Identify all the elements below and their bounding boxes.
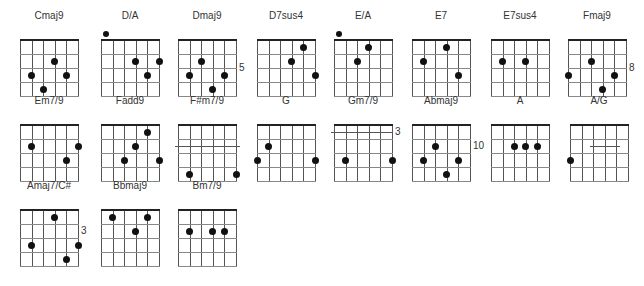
chord-name: A (480, 95, 560, 106)
fretboard-grid: 10 (412, 125, 470, 181)
nut (20, 124, 79, 126)
fret-line (570, 167, 629, 168)
fret-line (20, 82, 79, 83)
fret-line (334, 68, 393, 69)
finger-dot (221, 228, 228, 235)
fret-line (257, 139, 316, 140)
chord-name: Bbmaj9 (90, 180, 170, 191)
fret-line (257, 68, 316, 69)
fret-line (178, 266, 237, 267)
chord-name: Dmaj9 (167, 10, 247, 21)
finger-dot (443, 171, 450, 178)
finger-dot (233, 171, 240, 178)
chord-name: Fadd9 (90, 95, 170, 106)
fret-line (178, 68, 237, 69)
fret-number-label: 3 (81, 225, 87, 236)
fret-line (412, 167, 471, 168)
finger-dot (186, 171, 193, 178)
fret-number-label: 8 (629, 62, 635, 73)
fret-line (178, 82, 237, 83)
chord-name: E7 (401, 10, 481, 21)
fret-line (178, 54, 237, 55)
fret-line (20, 238, 79, 239)
finger-dot (522, 58, 529, 65)
finger-dot (144, 214, 151, 221)
fret-line (20, 68, 79, 69)
finger-dot (51, 214, 58, 221)
chord-name: Gm7/9 (323, 95, 403, 106)
fretboard-grid (570, 125, 628, 181)
fret-line (101, 252, 160, 253)
fretboard-grid (20, 40, 78, 96)
fret-line (101, 54, 160, 55)
nut (412, 124, 471, 126)
fret-line (491, 54, 550, 55)
nut (412, 39, 471, 41)
fret-line (178, 139, 237, 140)
finger-dot (432, 143, 439, 150)
nut (178, 209, 237, 211)
finger-dot (499, 58, 506, 65)
fret-line (570, 153, 629, 154)
fret-line (334, 82, 393, 83)
finger-dot (209, 228, 216, 235)
fretboard-grid (178, 210, 236, 266)
fretboard-grid: 3 (20, 210, 78, 266)
fret-line (257, 82, 316, 83)
fret-line (412, 54, 471, 55)
fretboard-grid (257, 40, 315, 96)
fret-line (101, 82, 160, 83)
fretboard-grid (101, 210, 159, 266)
chord-name: E7sus4 (480, 10, 560, 21)
finger-dot (522, 143, 529, 150)
fret-line (101, 167, 160, 168)
finger-dot (455, 157, 462, 164)
nut (334, 124, 393, 126)
fret-line (491, 68, 550, 69)
fret-line (491, 153, 550, 154)
finger-dot (40, 86, 47, 93)
fretboard-grid (412, 40, 470, 96)
barre-line (175, 146, 240, 147)
finger-dot (63, 72, 70, 79)
finger-dot (75, 242, 82, 249)
chord-name: Bm7/9 (167, 180, 247, 191)
fretboard-grid (257, 125, 315, 181)
fretboard-grid (178, 125, 236, 181)
finger-dot (186, 228, 193, 235)
barre-line (331, 132, 392, 133)
chord-name: Cmaj9 (9, 10, 89, 21)
chord-name: Fmaj9 (557, 10, 637, 21)
finger-dot (265, 143, 272, 150)
fret-line (491, 139, 550, 140)
fret-line (20, 54, 79, 55)
finger-dot (186, 72, 193, 79)
fret-line (20, 252, 79, 253)
fret-line (491, 181, 550, 182)
fret-line (412, 139, 471, 140)
finger-dot (221, 72, 228, 79)
fret-line (178, 153, 237, 154)
chord-name: D/A (90, 10, 170, 21)
fretboard-grid (101, 125, 159, 181)
finger-dot (156, 157, 163, 164)
finger-dot (588, 58, 595, 65)
finger-dot (144, 72, 151, 79)
finger-dot (132, 58, 139, 65)
finger-dot (354, 58, 361, 65)
nut (257, 39, 316, 41)
fret-line (412, 153, 471, 154)
fret-line (568, 82, 627, 83)
finger-dot (28, 143, 35, 150)
finger-dot (342, 157, 349, 164)
fret-line (101, 266, 160, 267)
finger-dot (132, 143, 139, 150)
finger-dot (420, 58, 427, 65)
fret-line (20, 224, 79, 225)
open-string-dot (336, 31, 342, 37)
finger-dot (312, 157, 319, 164)
nut (101, 209, 160, 211)
fret-line (257, 153, 316, 154)
fret-line (334, 139, 393, 140)
finger-dot (300, 44, 307, 51)
